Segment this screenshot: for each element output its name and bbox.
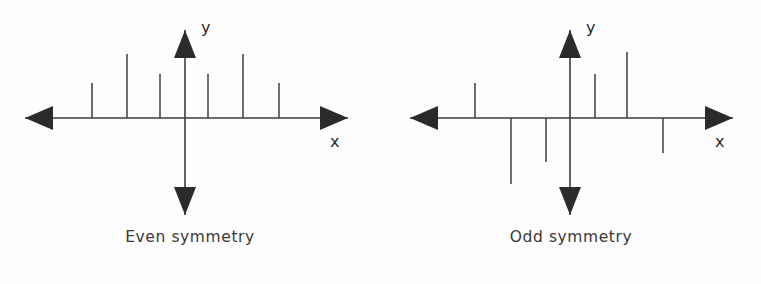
y-axis-label: y bbox=[586, 18, 595, 37]
y-axis-label: y bbox=[201, 18, 210, 37]
even-symmetry-panel: y x Even symmetry bbox=[0, 0, 380, 284]
even-symmetry-caption: Even symmetry bbox=[0, 228, 380, 246]
x-axis-right-arrowhead bbox=[320, 106, 348, 130]
odd-symmetry-caption: Odd symmetry bbox=[381, 228, 761, 246]
y-axis-down-arrowhead bbox=[174, 187, 196, 215]
x-axis-left-arrowhead bbox=[410, 106, 438, 130]
figure-root: y x Even symmetry y x Odd symmetry bbox=[0, 0, 761, 284]
x-axis-right-arrowhead bbox=[705, 106, 733, 130]
x-axis-left-arrowhead bbox=[25, 106, 53, 130]
y-axis-up-arrowhead bbox=[174, 30, 196, 58]
x-axis-label: x bbox=[330, 132, 339, 151]
odd-symmetry-panel: y x Odd symmetry bbox=[381, 0, 761, 284]
odd-symmetry-plot: y x bbox=[381, 0, 761, 230]
x-axis-label: x bbox=[715, 132, 724, 151]
y-axis-up-arrowhead bbox=[559, 30, 581, 58]
even-symmetry-plot: y x bbox=[0, 0, 380, 230]
y-axis-down-arrowhead bbox=[559, 187, 581, 215]
